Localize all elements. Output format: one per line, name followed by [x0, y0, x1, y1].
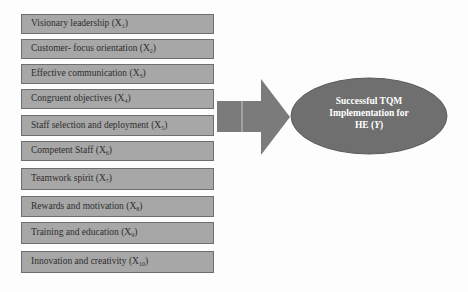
arrow-right-icon	[217, 79, 290, 155]
outcome-label: Successful TQM Implementation for HE (Y)	[300, 95, 438, 131]
diagram-graphics	[0, 0, 468, 292]
outcome-line-1: Successful TQM	[300, 95, 438, 107]
outcome-line-3: HE (Y)	[300, 119, 438, 131]
outcome-line-2: Implementation for	[300, 107, 438, 119]
